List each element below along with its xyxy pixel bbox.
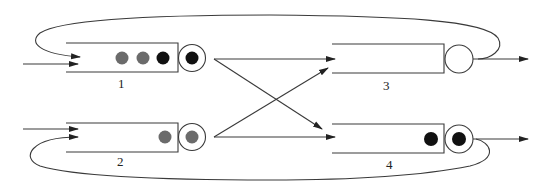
waiting-customer xyxy=(424,132,438,146)
waiting-customer xyxy=(116,52,129,65)
route-1-to-4 xyxy=(214,59,322,129)
feedback-loop-3-to-1 xyxy=(36,15,500,59)
customer-in-service xyxy=(186,52,199,65)
feedback-loop-4-to-2 xyxy=(30,137,489,180)
queue-label: 3 xyxy=(383,78,390,93)
queueing-network-diagram: 1 2 3 4 xyxy=(0,0,547,191)
queue-label: 2 xyxy=(117,154,124,169)
waiting-customer xyxy=(159,131,172,144)
customer-in-service xyxy=(186,131,199,144)
queue-2: 2 xyxy=(66,123,206,169)
queue-4: 4 xyxy=(332,124,473,172)
waiting-customer xyxy=(137,52,150,65)
queue-3: 3 xyxy=(332,44,473,93)
queue-label: 1 xyxy=(118,76,125,91)
waiting-customer xyxy=(157,52,170,65)
queue-label: 4 xyxy=(386,157,393,172)
queue-1: 1 xyxy=(66,43,206,91)
server xyxy=(445,45,473,73)
customer-in-service xyxy=(452,132,466,146)
route-2-to-3 xyxy=(214,68,328,137)
